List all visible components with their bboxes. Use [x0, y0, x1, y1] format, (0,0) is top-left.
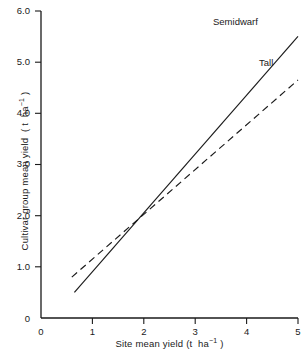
series-label-tall: Tall — [259, 57, 273, 68]
x-tick-label-2: 2 — [134, 326, 154, 337]
series-line-semidwarf — [74, 36, 298, 292]
x-tick-label-4: 4 — [237, 326, 257, 337]
x-axis-ticks — [92, 318, 298, 324]
y-tick-label-6: 6.0 — [4, 5, 30, 16]
plot-area — [0, 0, 305, 356]
y-tick-label-0: 0 — [4, 313, 30, 324]
x-tick-label-5: 5 — [288, 326, 305, 337]
y-axis-title-text: Cultivar group mean yield ( t ha−1 ) — [19, 92, 30, 251]
x-axis-title: Site mean yield (t ha−1 ) — [41, 337, 298, 349]
series-label-semidwarf: Semidwarf — [213, 16, 258, 27]
y-axis-title: Cultivar group mean yield ( t ha−1 ) — [18, 51, 30, 291]
y-axis-exponent: −1 — [18, 98, 25, 106]
x-tick-label-0: 0 — [31, 326, 51, 337]
chart-figure: 6.0 5.0 4.0 3.0 2.0 1.0 0 0 1 2 3 4 5 Se… — [0, 0, 305, 356]
x-axis-title-text: Site mean yield (t ha−1 ) — [115, 338, 223, 349]
x-tick-label-3: 3 — [185, 326, 205, 337]
y-axis-ticks — [35, 11, 41, 267]
x-axis-exponent: −1 — [209, 337, 217, 344]
series-line-tall — [72, 80, 298, 277]
x-tick-label-1: 1 — [82, 326, 102, 337]
